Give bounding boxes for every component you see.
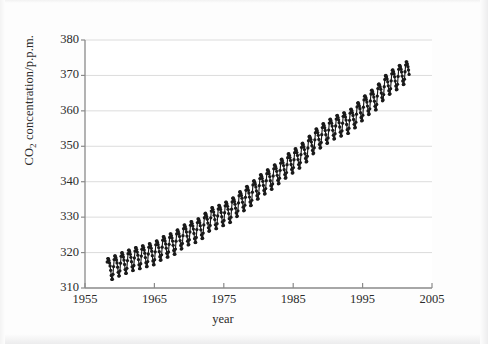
x-tick-label: 1985 [263,292,323,307]
y-tick-label: 360 [35,103,79,118]
scanned-page: CO2 concentration/p.p.m. year 3103203303… [0,0,488,344]
co2-concentration-chart: CO2 concentration/p.p.m. year 3103203303… [0,0,488,344]
x-tick-label: 1995 [333,292,393,307]
x-tick-label: 1965 [124,292,184,307]
y-axis-label-text: CO [22,148,36,166]
y-tick-label: 350 [35,138,79,153]
y-tick-label: 320 [35,245,79,260]
x-tick-label: 2005 [402,292,462,307]
y-tick-label: 380 [35,32,79,47]
y-tick-label: 330 [35,209,79,224]
y-tick-label: 340 [35,174,79,189]
x-axis-label: year [0,312,488,327]
x-axis-label-text: year [212,312,234,326]
y-axis-label: CO2 concentration/p.p.m. [22,0,39,200]
x-tick-label: 1955 [55,292,115,307]
x-tick-label: 1975 [194,292,254,307]
y-axis-label-rest: concentration/p.p.m. [22,35,36,143]
y-tick-label: 370 [35,67,79,82]
